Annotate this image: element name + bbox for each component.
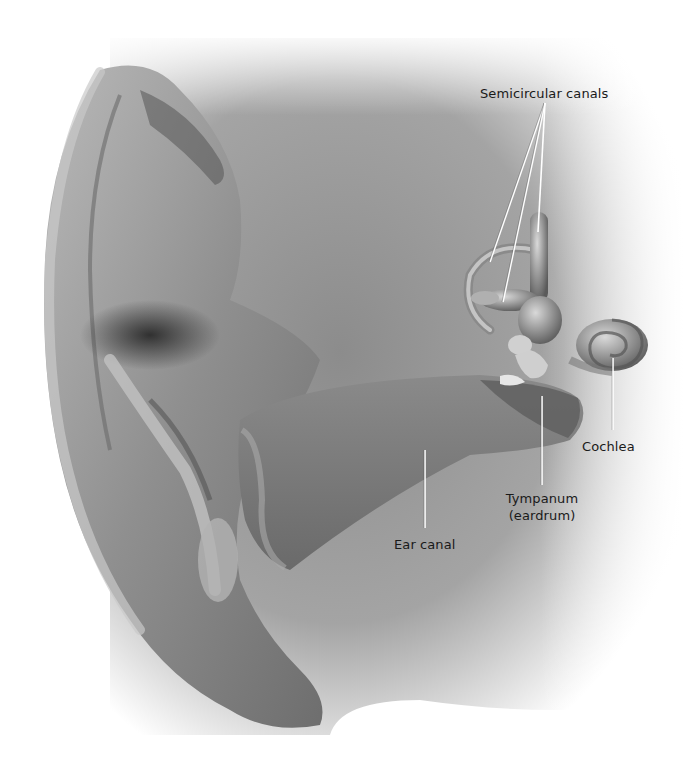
ear-illustration [0,0,684,767]
label-tympanum-line2: (eardrum) [502,507,582,524]
label-tympanum: Tympanum (eardrum) [502,490,582,524]
label-cochlea: Cochlea [582,438,635,455]
label-ear-canal: Ear canal [394,536,456,553]
label-tympanum-line1: Tympanum [502,490,582,507]
label-semicircular-canals: Semicircular canals [480,85,608,102]
ear-anatomy-diagram: Semicircular canals Cochlea Tympanum (ea… [0,0,684,767]
